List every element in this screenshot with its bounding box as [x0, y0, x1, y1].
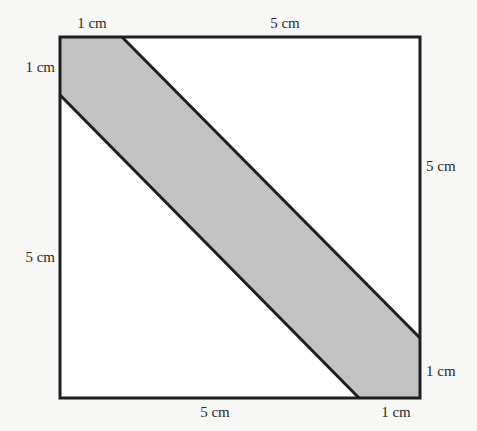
label-top-left: 1 cm: [77, 15, 107, 31]
label-bottom-left: 5 cm: [200, 404, 230, 420]
label-left-top: 1 cm: [25, 59, 55, 75]
square-band-diagram: 1 cm 5 cm 1 cm 5 cm 5 cm 1 cm 5 cm 1 cm: [0, 0, 477, 431]
label-right-top: 5 cm: [426, 158, 456, 174]
label-left-bottom: 5 cm: [25, 249, 55, 265]
label-right-bottom: 1 cm: [426, 363, 456, 379]
label-top-right: 5 cm: [270, 15, 300, 31]
label-bottom-right: 1 cm: [381, 404, 411, 420]
